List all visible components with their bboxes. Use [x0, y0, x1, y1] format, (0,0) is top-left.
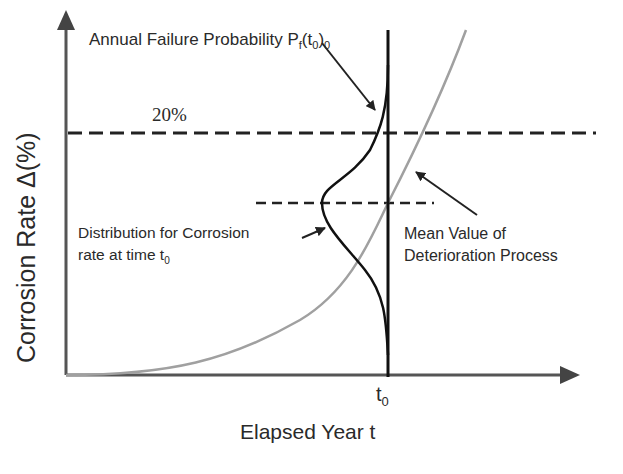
x-axis [66, 366, 580, 384]
distribution-arrow [302, 228, 325, 238]
sub-0b: 0 [324, 39, 330, 51]
x-axis-arrow-icon [560, 366, 580, 384]
annual-failure-probability-label: Annual Failure Probability Pf(t0)0 [89, 30, 330, 50]
distribution-curve [322, 65, 388, 355]
distribution-label: Distribution for Corrosion rate at time … [78, 222, 249, 266]
y-axis-label: Corrosion Rate Δ(%) [12, 132, 41, 363]
mean-arrow [416, 172, 477, 215]
dist-sub-0: 0 [164, 255, 170, 266]
y-axis [57, 10, 75, 375]
distribution-line1: Distribution for Corrosion [78, 222, 249, 244]
tick-sub: 0 [382, 394, 389, 409]
mean-line1: Mean Value of [404, 223, 558, 245]
t0-tick-label: t0 [376, 383, 389, 406]
annual-text: Annual Failure Probability P [89, 30, 299, 49]
y-axis-arrow-icon [57, 10, 75, 30]
paren-open: (t [302, 30, 312, 49]
annual-prob-arrow [322, 43, 375, 110]
x-axis-label: Elapsed Year t [240, 420, 375, 444]
mean-value-label: Mean Value of Deterioration Process [404, 223, 558, 267]
threshold-label: 20% [152, 104, 187, 126]
mean-line2: Deterioration Process [404, 245, 558, 267]
distribution-line2: rate at time t0 [78, 244, 249, 266]
dist-line2-text: rate at time t [78, 246, 164, 263]
